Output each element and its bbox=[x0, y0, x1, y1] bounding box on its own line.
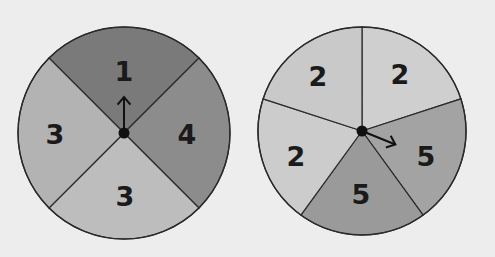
left-spinner: 1433 bbox=[18, 27, 230, 239]
sector-label: 5 bbox=[417, 141, 436, 172]
sector-label: 1 bbox=[115, 56, 134, 87]
sector-label: 2 bbox=[309, 61, 328, 92]
sector-label: 5 bbox=[352, 179, 371, 210]
sector-label: 2 bbox=[391, 59, 410, 90]
spinners-diagram: 1433 25522 bbox=[0, 0, 495, 257]
spinner-hub bbox=[119, 128, 130, 139]
sector-label: 3 bbox=[46, 119, 65, 150]
right-spinner: 25522 bbox=[258, 27, 466, 235]
sector-label: 3 bbox=[116, 181, 135, 212]
sector-label: 4 bbox=[178, 119, 197, 150]
spinner-hub bbox=[357, 126, 368, 137]
sector-label: 2 bbox=[287, 141, 306, 172]
